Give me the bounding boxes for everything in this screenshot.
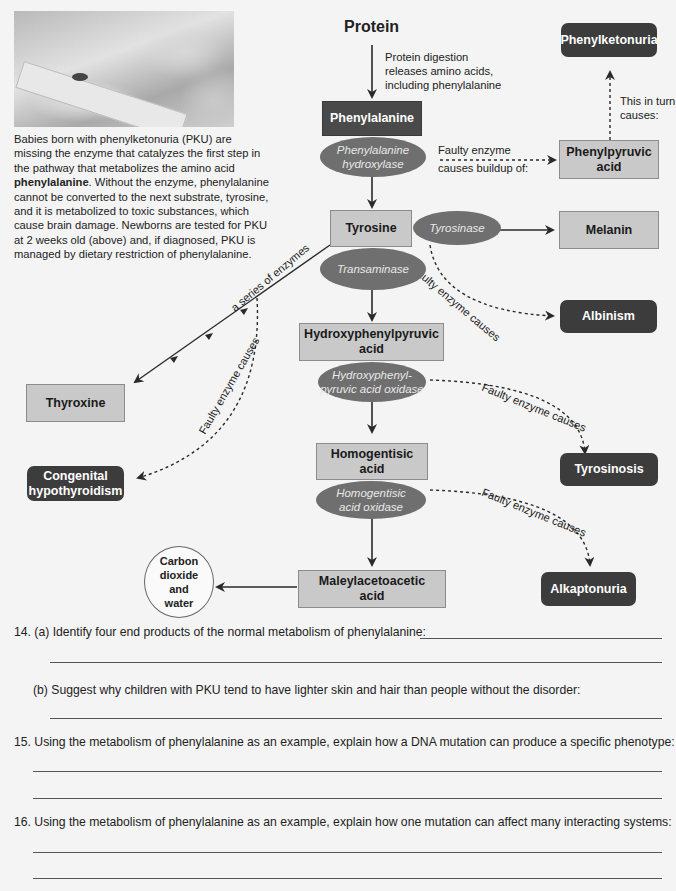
enzyme-homogentisic-acid-oxidase: Homogentisicacid oxidase xyxy=(316,481,426,519)
label-buildup: Faulty enzyme causes buildup of: xyxy=(438,143,528,175)
question-15: 15. Using the metabolism of phenylalanin… xyxy=(14,735,675,749)
end-product-co2-water: Carbon dioxide and water xyxy=(144,546,214,618)
enzyme-hydroxyphenylpyruvic-acid-oxidase: Hydroxyphenyl-pyruvic acid oxidase xyxy=(318,362,426,402)
box-thyroxine: Thyroxine xyxy=(26,384,125,422)
question-14a: 14. (a) Identify four end products of th… xyxy=(14,625,426,639)
box-homogentisic-acid: Homogentisicacid xyxy=(316,443,428,480)
enzyme-tyrosinase: Tyrosinase xyxy=(413,211,501,245)
box-maleylacetoacetic-acid: Maleylacetoaceticacid xyxy=(298,570,446,608)
enzyme-phenylalanine-hydroxylase: Phenylalaninehydroxylase xyxy=(320,137,426,177)
box-hydroxyphenylpyruvic-acid: Hydroxyphenylpyruvicacid xyxy=(299,323,444,361)
answer-line-16-2[interactable] xyxy=(33,878,662,879)
protein-digestion-note: Protein digestion releases amino acids, … xyxy=(385,50,501,92)
question-16: 16. Using the metabolism of phenylalanin… xyxy=(14,815,672,829)
answer-line-14a-2[interactable] xyxy=(50,662,662,663)
label-faulty-hypothyroidism: Faulty enzyme causes xyxy=(196,335,261,436)
box-tyrosine: Tyrosine xyxy=(330,210,412,247)
disorder-phenylketonuria: Phenylketonuria xyxy=(561,23,657,57)
box-melanin: Melanin xyxy=(559,211,659,249)
enzyme-transaminase: Transaminase xyxy=(320,248,426,290)
label-in-turn: This in turn causes: xyxy=(620,94,675,122)
answer-line-14a-1[interactable] xyxy=(420,638,662,639)
answer-line-15-2[interactable] xyxy=(33,798,662,799)
disorder-alkaptonuria: Alkaptonuria xyxy=(541,572,636,606)
disorder-congenital-hypothyroidism: Congenitalhypothyroidism xyxy=(27,466,124,501)
protein-label: Protein xyxy=(344,18,399,36)
box-phenylalanine: Phenylalanine xyxy=(322,101,422,136)
answer-line-15-1[interactable] xyxy=(33,771,662,772)
box-phenylpyruvic-acid: Phenylpyruvicacid xyxy=(559,140,659,179)
disorder-tyrosinosis: Tyrosinosis xyxy=(560,453,658,486)
answer-line-14b[interactable] xyxy=(50,718,662,719)
label-series-enzymes: a series of enzymes xyxy=(229,241,312,313)
disorder-albinism: Albinism xyxy=(560,300,657,333)
answer-line-16-1[interactable] xyxy=(33,852,662,853)
question-14b: (b) Suggest why children with PKU tend t… xyxy=(33,683,580,697)
